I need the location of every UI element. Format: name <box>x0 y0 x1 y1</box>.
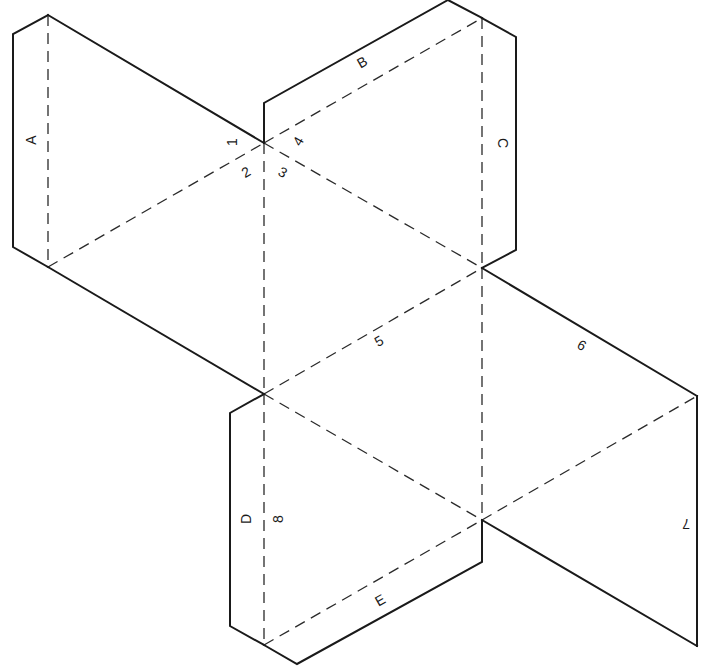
tab-label-d: D <box>238 514 254 524</box>
edge-label-1: 1 <box>224 138 240 146</box>
octahedron-net-diagram: ABCDE12345678 <box>0 0 711 671</box>
tab-label-a: A <box>23 135 39 145</box>
tab-label-c: C <box>495 138 511 148</box>
background <box>0 0 711 671</box>
edge-label-8: 8 <box>270 515 286 523</box>
edge-label-7: 7 <box>682 516 690 532</box>
